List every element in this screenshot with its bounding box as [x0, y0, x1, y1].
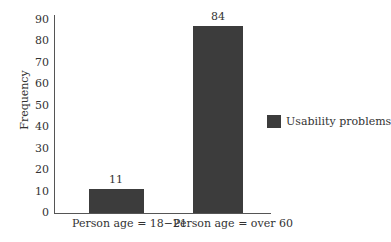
bar-age-18-21: [89, 189, 144, 213]
bar-value-label-age-18-21: 11: [91, 173, 141, 186]
y-tick-60: 60: [19, 78, 49, 90]
x-category-age-18-21: Person age = 18−21: [72, 217, 187, 230]
y-tick-40: 40: [19, 121, 49, 133]
y-tick-70: 70: [19, 57, 49, 69]
y-tick-90: 90: [19, 14, 49, 26]
y-tick-50: 50: [19, 100, 49, 112]
legend-label: Usability problems: [286, 115, 391, 128]
bar-age-over-60: [193, 26, 243, 213]
bar-value-label-age-over-60: 84: [193, 10, 243, 23]
y-tick-10: 10: [19, 186, 49, 198]
y-axis-line: [54, 15, 55, 214]
legend-swatch: [267, 115, 281, 128]
y-tick-30: 30: [19, 143, 49, 155]
y-tick-20: 20: [19, 164, 49, 176]
y-tick-0: 0: [19, 207, 49, 219]
y-tick-80: 80: [19, 35, 49, 47]
x-axis-line: [54, 213, 271, 214]
x-category-age-over-60: Person age = over 60: [173, 217, 293, 230]
legend: Usability problems: [267, 115, 391, 128]
